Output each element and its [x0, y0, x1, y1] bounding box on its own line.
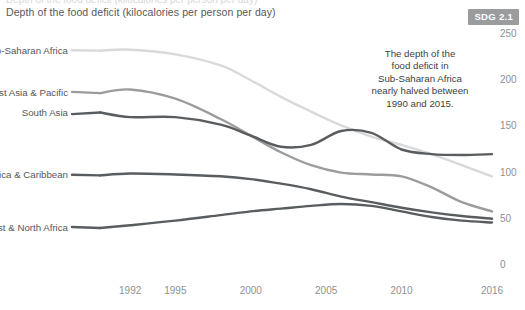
- x-tick-label: 2005: [306, 285, 346, 296]
- x-tick-label: 1992: [110, 285, 150, 296]
- y-tick-label: 250: [500, 28, 517, 39]
- series-leader-line: [72, 175, 100, 176]
- series-label-latin-america-caribbean: Latin America & Caribbean: [0, 169, 68, 180]
- chart-annotation: The depth of the food deficit in Sub-Sah…: [358, 48, 482, 110]
- y-tick-label: 200: [500, 74, 517, 85]
- series-line: [100, 113, 492, 155]
- x-tick-label: 2010: [382, 285, 422, 296]
- y-tick-label: 100: [500, 167, 517, 178]
- series-label-middle-east-north-africa: Middle East & North Africa: [0, 222, 68, 233]
- x-tick-label: 2000: [231, 285, 271, 296]
- series-leader-line: [72, 227, 100, 228]
- series-label-south-asia: South Asia: [22, 107, 68, 118]
- series-line: [100, 173, 492, 218]
- series-label-east-asia-pacific: East Asia & Pacific: [0, 87, 68, 98]
- x-tick-label: 1995: [155, 285, 195, 296]
- y-tick-label: 150: [500, 120, 517, 131]
- y-tick-label: 50: [500, 213, 511, 224]
- series-leader-line: [72, 113, 100, 115]
- series-line: [100, 204, 492, 228]
- line-chart-canvas: [0, 0, 525, 310]
- x-tick-label: 2016: [472, 285, 512, 296]
- series-leader-line: [72, 92, 100, 93]
- chart-page: Depth of the food deficit (kilocalories …: [0, 0, 525, 310]
- y-tick-label: 0: [500, 259, 506, 270]
- series-label-sub-saharan-africa: Sub-Saharan Africa: [0, 45, 68, 56]
